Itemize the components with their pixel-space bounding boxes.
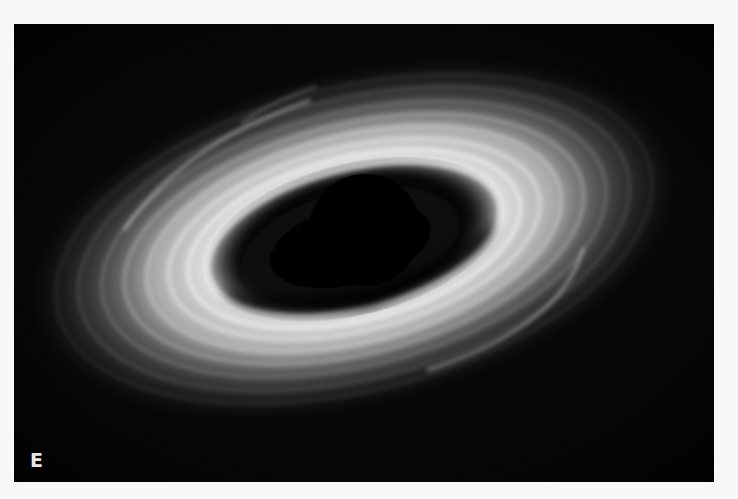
panel-label: E [30,451,43,470]
black-hole-illustration [14,24,714,482]
black-hole-image: E [14,24,714,482]
vignette [14,24,714,482]
